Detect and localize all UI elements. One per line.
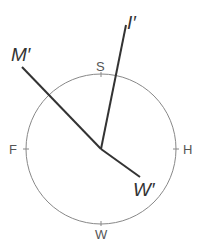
direction-label-h: H [183, 142, 192, 157]
vector-label-w-prime: W′ [133, 179, 156, 200]
vector-label-i-prime: I′ [127, 12, 137, 33]
vector-m-prime [22, 67, 101, 149]
vector-label-m-prime: M′ [11, 44, 32, 65]
compass-diagram: S F H W M′ I′ W′ [0, 0, 211, 241]
vector-w-prime [101, 149, 140, 177]
direction-label-w: W [95, 227, 108, 241]
vector-i-prime [101, 25, 126, 149]
direction-label-f: F [9, 142, 17, 157]
direction-label-s: S [96, 59, 105, 74]
